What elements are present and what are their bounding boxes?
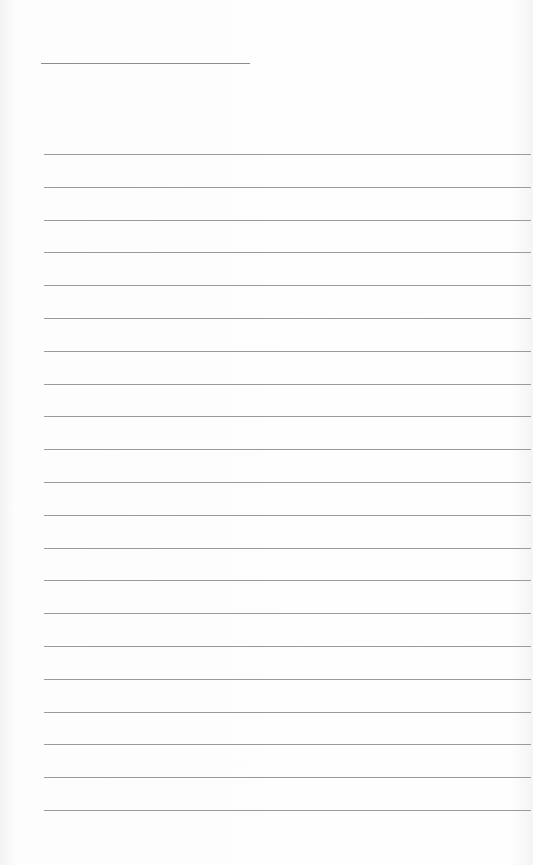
ruled-line xyxy=(44,285,531,286)
ruled-line xyxy=(44,220,531,221)
title-line xyxy=(41,63,250,64)
ruled-line xyxy=(44,515,531,516)
ruled-line xyxy=(44,679,531,680)
ruled-line xyxy=(44,187,531,188)
ruled-line xyxy=(44,482,531,483)
ruled-line xyxy=(44,351,531,352)
ruled-line xyxy=(44,548,531,549)
ruled-line xyxy=(44,252,531,253)
ruled-line xyxy=(44,613,531,614)
ruled-line xyxy=(44,154,531,155)
ruled-line xyxy=(44,777,531,778)
ruled-line xyxy=(44,318,531,319)
lined-paper-page xyxy=(0,0,533,865)
ruled-line xyxy=(44,810,531,811)
ruled-line xyxy=(44,384,531,385)
ruled-line xyxy=(44,580,531,581)
ruled-line xyxy=(44,646,531,647)
ruled-line xyxy=(44,744,531,745)
ruled-line xyxy=(44,712,531,713)
ruled-line xyxy=(44,449,531,450)
ruled-line xyxy=(44,416,531,417)
